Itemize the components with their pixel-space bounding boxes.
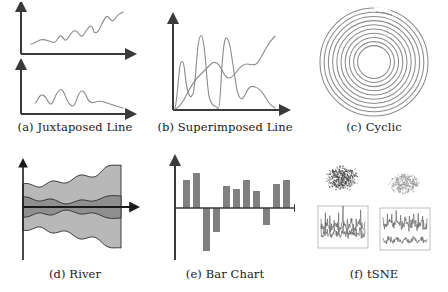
tsne-cluster-left	[326, 165, 358, 190]
bar-chart-plot	[155, 148, 295, 266]
river-plot	[5, 148, 145, 266]
superimposed-line-plot	[155, 2, 295, 120]
series-line-smooth	[175, 36, 275, 109]
bar	[213, 208, 220, 232]
cyclic-plot	[304, 2, 444, 120]
caption-cyclic: (c) Cyclic	[346, 121, 402, 134]
tsne-cluster-right	[388, 174, 419, 195]
bar	[283, 180, 290, 208]
axis-top	[21, 10, 127, 54]
bar-series	[183, 173, 290, 251]
panel-juxtaposed-line: (a) Juxtaposed Line	[0, 0, 150, 146]
caption-tsne: (f) tSNE	[350, 268, 399, 281]
figure-grid: (a) Juxtaposed Line (b) Superimposed Lin…	[0, 0, 448, 292]
caption-superimposed-line: (b) Superimposed Line	[157, 121, 292, 134]
bar	[243, 180, 250, 208]
caption-bar-chart: (e) Bar Chart	[186, 268, 264, 281]
axis-bottom	[21, 68, 127, 114]
juxtaposed-line-plot	[5, 2, 145, 120]
panel-tsne: (f) tSNE	[300, 146, 448, 292]
panel-bar-chart: (e) Bar Chart	[150, 146, 300, 292]
bar	[253, 191, 260, 208]
bar	[223, 186, 230, 208]
tsne-plot	[304, 148, 444, 266]
panel-superimposed-line: (b) Superimposed Line	[150, 0, 300, 146]
caption-river: (d) River	[49, 268, 101, 281]
bar	[273, 184, 280, 208]
tsne-inset-left	[318, 206, 368, 248]
caption-juxtaposed-line: (a) Juxtaposed Line	[18, 121, 133, 134]
panel-river: (d) River	[0, 146, 150, 292]
bar	[203, 208, 210, 251]
bar	[193, 173, 200, 208]
series-line-bottom	[35, 90, 123, 108]
series-line-top	[31, 12, 123, 44]
bar	[183, 180, 190, 208]
panel-cyclic: (c) Cyclic	[300, 0, 448, 146]
cyclic-spiral	[320, 8, 428, 116]
bar	[233, 189, 240, 208]
tsne-inset-right	[380, 208, 430, 250]
bar	[263, 208, 270, 225]
series-line-spiky	[175, 36, 275, 110]
